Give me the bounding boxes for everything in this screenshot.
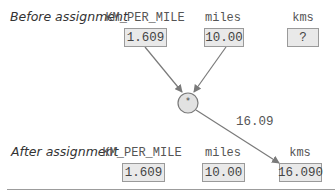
- before-value-box-kms: ?: [287, 28, 319, 47]
- before-value-box-km-per-mile: 1.609: [124, 28, 167, 47]
- after-var-label-kms: kms: [289, 146, 311, 160]
- arrow-km-per-mile-to-operator: [145, 47, 182, 92]
- before-var-label-miles: miles: [205, 11, 241, 25]
- before-value-box-miles: 10.00: [204, 28, 244, 47]
- assignment-diagram: * Before assignment KM_PER_MILE miles km…: [0, 0, 335, 196]
- multiply-result-value: 16.09: [236, 115, 274, 129]
- before-var-label-km-per-mile: KM_PER_MILE: [105, 11, 184, 25]
- after-var-label-km-per-mile: KM_PER_MILE: [102, 146, 181, 160]
- multiply-operator-icon: *: [183, 97, 193, 106]
- after-value-box-miles: 10.00: [202, 163, 245, 182]
- arrow-miles-to-operator: [194, 47, 226, 92]
- after-value-box-kms: 16.090: [279, 163, 322, 182]
- after-var-label-miles: miles: [205, 146, 241, 160]
- before-var-label-kms: kms: [292, 11, 314, 25]
- bottom-divider: [7, 189, 335, 190]
- after-value-box-km-per-mile: 1.609: [122, 163, 165, 182]
